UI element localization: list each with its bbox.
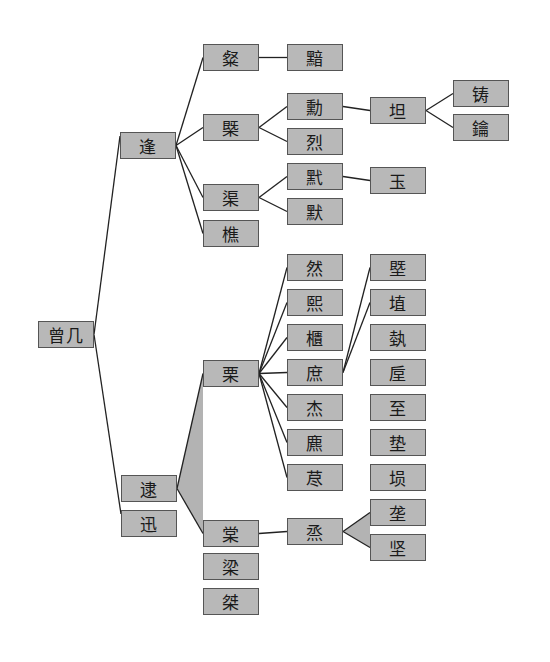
node-yu: 玉	[370, 167, 426, 194]
node-qu: 渠	[203, 184, 259, 211]
edge-qu-yi	[259, 177, 287, 198]
node-zhi2: 至	[370, 394, 426, 421]
genealogy-tree-diagram: 曾几 逢 逮 迅 粲 槩 渠 樵 栗 棠 梁 桀 黯 勳 烈 黓 默 然 熙 櫃…	[0, 0, 550, 662]
node-liang: 梁	[203, 553, 259, 580]
node-xun2: 勳	[287, 93, 343, 120]
node-can: 粲	[203, 44, 259, 71]
node-biao: 麃	[287, 429, 343, 456]
edge-feng-can	[176, 58, 203, 146]
node-qiao: 樵	[203, 220, 259, 247]
edge-xun2-tan	[343, 107, 370, 111]
node-zengji: 曾几	[38, 321, 94, 348]
edge-tang-zheng	[259, 532, 287, 534]
edge-shu-zhi	[343, 303, 370, 373]
node-jian: 坚	[370, 534, 426, 561]
node-jie: 桀	[203, 588, 259, 615]
connector-band-0	[177, 374, 203, 534]
node-feng: 逢	[120, 132, 176, 159]
edge-li-xi	[259, 303, 287, 374]
node-zheng: 烝	[287, 518, 343, 545]
node-yue: 鑰	[453, 114, 509, 141]
node-tang: 棠	[203, 520, 259, 547]
edge-li-ran	[259, 268, 287, 374]
node-hou: 垕	[370, 359, 426, 386]
node-dian: 垫	[370, 429, 426, 456]
edge-li-shu	[259, 373, 287, 374]
node-tan: 坦	[370, 97, 426, 124]
node-jin: 荩	[287, 464, 343, 491]
node-xun: 迅	[121, 510, 177, 537]
node-ji: 塈	[370, 254, 426, 281]
node-lie: 烈	[287, 128, 343, 155]
node-yi: 黓	[287, 163, 343, 190]
edge-li-jin	[259, 374, 287, 478]
edge-zengji-feng	[94, 136, 120, 335]
node-shu: 庶	[287, 359, 343, 386]
edge-tan-zhu	[426, 94, 453, 111]
connector-band-1	[343, 513, 370, 548]
node-yi2: 埶	[370, 324, 426, 351]
node-gui: 櫃	[287, 324, 343, 351]
edge-zengji-xun	[94, 335, 121, 515]
node-zhu: 铸	[453, 80, 509, 107]
edge-qu-mo	[259, 198, 287, 212]
node-dai: 逮	[121, 475, 177, 502]
edge-gai-xun2	[259, 107, 287, 128]
node-gai: 槩	[203, 114, 259, 141]
edge-gai-lie	[259, 128, 287, 142]
edge-shu-ji	[343, 268, 370, 373]
node-mo: 默	[287, 198, 343, 225]
node-xun3: 埙	[370, 464, 426, 491]
node-xi: 熙	[287, 289, 343, 316]
node-long: 垄	[370, 499, 426, 526]
edge-yi-yu	[343, 177, 370, 181]
node-ran: 然	[287, 254, 343, 281]
node-zhi: 埴	[370, 289, 426, 316]
edge-li-biao	[259, 374, 287, 443]
node-li: 栗	[203, 360, 259, 387]
edge-tan-yue	[426, 111, 453, 128]
node-an: 黯	[287, 44, 343, 71]
node-jie2: 杰	[287, 394, 343, 421]
